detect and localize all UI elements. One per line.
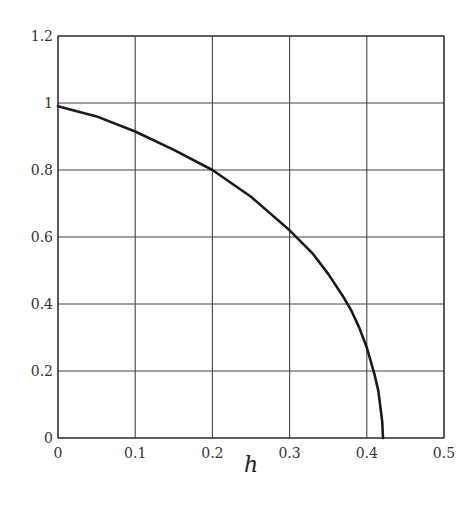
y-tick-label: 0.2 xyxy=(31,363,53,379)
x-tick-label: 0.1 xyxy=(124,445,146,461)
y-tick-labels: 00.20.40.60.811.2 xyxy=(31,28,53,446)
y-tick-label: 0.4 xyxy=(31,296,53,312)
y-tick-label: 0.6 xyxy=(31,229,53,245)
data-curve xyxy=(58,106,383,438)
x-tick-label: 0.3 xyxy=(278,445,300,461)
grid-lines xyxy=(58,36,444,438)
y-tick-label: 0 xyxy=(44,430,53,446)
y-tick-label: 0.8 xyxy=(31,162,53,178)
x-tick-label: 0.2 xyxy=(201,445,223,461)
x-tick-label: 0.5 xyxy=(433,445,455,461)
chart: 00.20.40.60.811.2 00.10.20.30.40.5 h xyxy=(0,0,473,514)
x-axis-label: h xyxy=(244,452,258,477)
y-tick-label: 1 xyxy=(44,95,53,111)
x-tick-label: 0 xyxy=(54,445,63,461)
y-tick-label: 1.2 xyxy=(31,28,53,44)
x-tick-label: 0.4 xyxy=(356,445,378,461)
